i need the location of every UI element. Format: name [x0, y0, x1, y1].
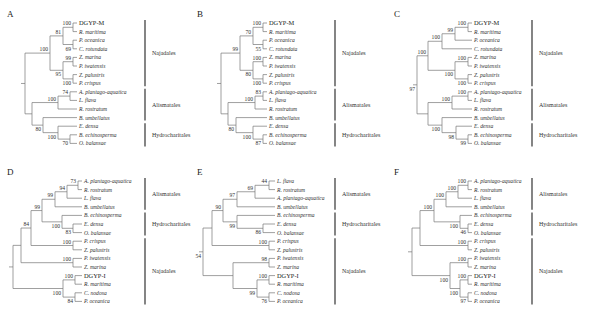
leaf-label: E. densa — [83, 221, 103, 227]
support-value: 100 — [458, 239, 467, 245]
clade-label: Najadales — [152, 50, 176, 56]
clade-label: Alismatales — [152, 191, 181, 197]
support-value: 100 — [448, 185, 457, 191]
support-value: 100 — [432, 34, 441, 40]
leaf-label: P. crispus — [276, 238, 299, 244]
leaf-label: A. plantago-aquatica — [473, 89, 522, 95]
leaf-label: R. maritima — [276, 281, 304, 287]
leaf-label: L. flava — [83, 195, 101, 201]
support-value: 76 — [261, 298, 267, 304]
leaf-label: L. flava — [473, 195, 491, 201]
support-value: 100 — [63, 256, 72, 262]
leaf-label: B. echinosperma — [84, 212, 122, 218]
support-value: 100 — [65, 273, 74, 279]
support-value: 84 — [23, 221, 29, 227]
support-value: 97 — [409, 86, 415, 92]
leaf-label: B. echinosperma — [269, 132, 307, 138]
support-value: 81 — [55, 29, 61, 35]
leaf-label: A. plantago-aquatica — [268, 89, 317, 95]
leaf-label: P. oceanica — [78, 37, 105, 43]
leaf-label: O. balansae — [84, 230, 112, 236]
leaf-label: DGYP-I — [474, 272, 496, 279]
leaf-label: E. densa — [268, 123, 288, 129]
leaf-label: L. flava — [78, 97, 96, 103]
leaf-label: Z. marina — [84, 264, 106, 270]
leaf-label: DGYP-M — [79, 19, 105, 26]
leaf-label: Z. palustris — [277, 247, 303, 253]
panel-A: ADGYP-MR. maritimaP. oceanicaC. rotundat… — [7, 9, 191, 146]
leaf-label: C. nodosa — [84, 290, 107, 296]
leaf-label: P. iwatensis — [473, 255, 500, 261]
leaf-label: R. rostratum — [473, 187, 502, 193]
leaf-label: B. umbellatus — [474, 204, 505, 210]
leaf-label: A. plantago-aquatica — [78, 89, 127, 95]
support-value: 100 — [458, 80, 467, 86]
clade-label: Najadales — [539, 268, 563, 274]
clade-label: Hydrocharitales — [152, 221, 191, 227]
leaf-label: B. umbellatus — [269, 115, 300, 121]
support-value: 70 — [62, 140, 68, 146]
leaf-label: P. crispus — [268, 80, 291, 86]
support-value: 100 — [445, 71, 454, 77]
clade-label: Najadales — [342, 268, 366, 274]
leaf-label: C. rotundata — [474, 46, 503, 52]
leaf-label: DGYP-M — [269, 19, 295, 26]
leaf-label: DGYP-I — [84, 272, 106, 279]
support-value: 100 — [440, 277, 449, 283]
panel-label: B — [197, 9, 203, 19]
leaf-label: C. nodosa — [277, 290, 300, 296]
support-value: 100 — [432, 126, 441, 132]
leaf-label: C. rotundata — [269, 46, 298, 52]
leaf-label: B. echinosperma — [79, 132, 117, 138]
support-value: 99 — [249, 290, 255, 296]
leaf-label: P. crispus — [473, 238, 496, 244]
leaf-label: C. nodosa — [474, 290, 497, 296]
support-value: 99 — [447, 27, 453, 33]
leaf-label: B. echinosperma — [474, 212, 512, 218]
clade-label: Alismatales — [539, 102, 568, 108]
leaf-label: B. umbellatus — [474, 115, 505, 121]
support-value: 87 — [255, 140, 261, 146]
leaf-label: O. balansae — [269, 140, 297, 146]
support-value: 100 — [245, 96, 254, 102]
leaf-label: P. oceanica — [473, 37, 500, 43]
leaf-label: Z. palustris — [84, 247, 110, 253]
leaf-label: P. crispus — [473, 80, 496, 86]
leaf-label: R. rostratum — [268, 106, 297, 112]
support-value: 99 — [47, 192, 53, 198]
clade-label: Hydrocharitales — [152, 132, 191, 138]
support-value: 100 — [53, 290, 62, 296]
leaf-label: O. balansae — [277, 230, 305, 236]
support-value: 54 — [195, 253, 201, 259]
leaf-label: E. densa — [473, 123, 493, 129]
leaf-label: O. balansae — [474, 230, 502, 236]
support-value: 98 — [448, 134, 454, 140]
panel-label: E — [197, 167, 203, 177]
support-value: 100 — [418, 49, 427, 55]
support-value: 100 — [458, 89, 467, 95]
leaf-label: Z. marina — [277, 264, 299, 270]
support-value: 86 — [255, 229, 261, 235]
support-value: 94 — [59, 185, 65, 191]
leaf-label: E. densa — [276, 221, 296, 227]
support-value: 46 — [460, 229, 466, 235]
support-value: 55 — [255, 46, 261, 52]
support-value: 100 — [458, 178, 467, 184]
leaf-label: L. flava — [268, 97, 286, 103]
support-value: 100 — [48, 96, 57, 102]
support-value: 84 — [67, 298, 73, 304]
support-value: 100 — [436, 192, 445, 198]
clade-label: Najadales — [152, 268, 176, 274]
leaf-label: O. balansae — [474, 140, 502, 146]
support-value: 99 — [34, 204, 40, 210]
leaf-label: B. echinosperma — [277, 212, 315, 218]
leaf-label: L. flava — [276, 178, 294, 184]
clade-label: Hydrocharitales — [539, 221, 578, 227]
phylogeny-figure: ADGYP-MR. maritimaP. oceanicaC. rotundat… — [0, 0, 594, 315]
panel-C: CDGYP-MR. maritimaP. oceanicaC. rotundat… — [394, 9, 578, 146]
support-value: 100 — [424, 204, 433, 210]
leaf-label: B. echinosperma — [474, 132, 512, 138]
support-value: 95 — [55, 71, 61, 77]
support-value: 99 — [65, 55, 71, 61]
leaf-label: P. oceanica — [473, 298, 500, 304]
